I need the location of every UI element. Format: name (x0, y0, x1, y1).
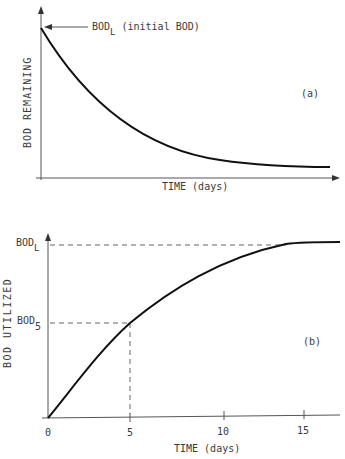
chart-b-tick-label-10: 10 (217, 426, 229, 437)
chart-b-x-label: TIME (days) (174, 443, 240, 454)
chart-b-bodl-label: BODL (16, 237, 39, 253)
chart-a: BODL(initial BOD) (a) BOD REMAINING TIME… (22, 10, 336, 192)
chart-b-x-axis (42, 415, 340, 418)
chart-b-tick-label-15: 15 (297, 425, 309, 436)
bod-figure: BODL(initial BOD) (a) BOD REMAINING TIME… (0, 0, 345, 459)
chart-b-tick-label-0: 0 (45, 427, 51, 438)
chart-b-tick-label-5: 5 (127, 427, 133, 438)
chart-b: 0 5 10 15 TIME (days) BODL BOD5 (b) BOD … (2, 237, 340, 454)
chart-b-bod5-label: BOD5 (17, 315, 41, 332)
chart-a-bodl-label: BODL(initial BOD) (92, 21, 200, 37)
chart-a-decay-curve (41, 28, 330, 167)
chart-b-y-label: BOD UTILIZED (2, 278, 13, 368)
chart-b-utilized-curve (48, 242, 340, 418)
chart-a-x-label: TIME (days) (162, 181, 228, 192)
chart-b-panel-label: (b) (303, 336, 321, 347)
chart-a-y-label: BOD REMAINING (22, 57, 33, 148)
chart-a-panel-label: (a) (301, 88, 319, 99)
